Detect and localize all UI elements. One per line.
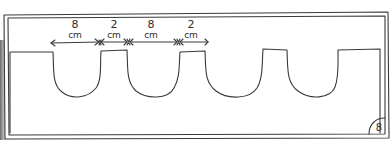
svg-text:cm: cm [107, 30, 121, 40]
svg-text:8: 8 [376, 122, 382, 133]
dimension-label-4: 2 cm [184, 18, 198, 40]
svg-text:cm: cm [68, 30, 82, 40]
page-number-badge: 8 [369, 118, 385, 134]
dimension-label-3: 8 cm [144, 18, 158, 40]
dimension-label-1: 8 cm [68, 18, 82, 40]
svg-text:cm: cm [184, 30, 198, 40]
dimension-arrows [51, 39, 208, 46]
svg-text:cm: cm [144, 30, 158, 40]
notched-strip-shape [10, 49, 380, 133]
dimension-label-2: 2 cm [107, 18, 121, 40]
diagram-canvas: 8 cm 2 cm 8 cm 2 cm 8 [0, 0, 392, 150]
